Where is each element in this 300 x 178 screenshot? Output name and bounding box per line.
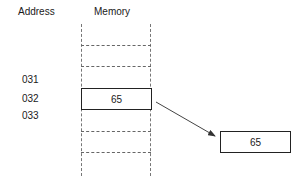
destination-box: 65 xyxy=(220,131,291,153)
destination-value: 65 xyxy=(250,137,261,148)
